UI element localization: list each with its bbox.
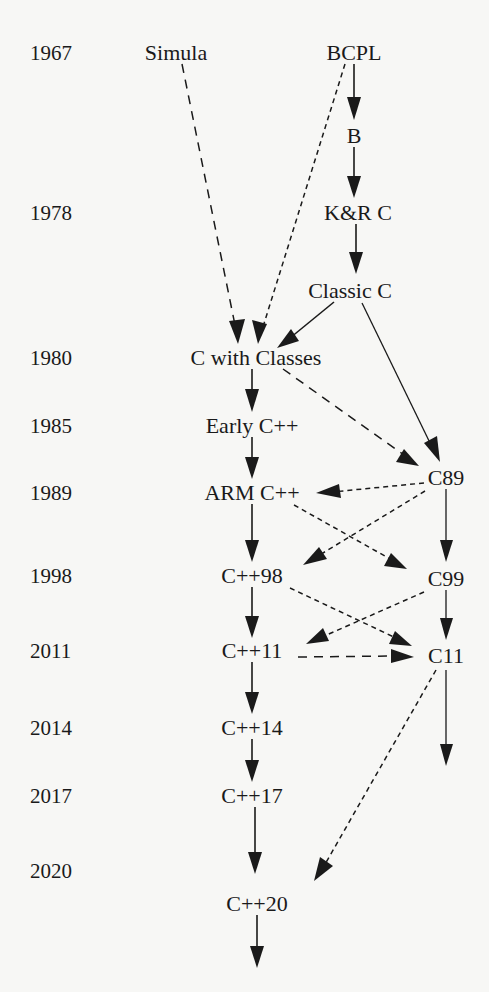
node-bcpl[interactable]: BCPL — [326, 40, 381, 65]
edge-c89-to-c99 — [440, 489, 453, 562]
edge-c89-to-arm-cpp — [316, 483, 424, 498]
node-layer: Simula BCPL B K&R C Classic C C with Cla… — [145, 40, 465, 916]
year-axis: 1967 1978 1980 1985 1989 1998 2011 2014 … — [30, 41, 73, 883]
year-label-1980: 1980 — [30, 346, 72, 370]
edge-c-with-classes-to-c89 — [283, 369, 419, 466]
node-c89[interactable]: C89 — [428, 465, 465, 490]
node-cpp14[interactable]: C++14 — [221, 715, 283, 740]
edge-cpp14-to-cpp17 — [245, 739, 259, 782]
node-b[interactable]: B — [347, 123, 362, 148]
edge-cpp20-to-future-cpp — [250, 915, 264, 968]
edge-b-to-k-and-r-c — [347, 147, 361, 198]
edge-classic-c-to-c-with-classes — [277, 302, 334, 348]
node-arm-cpp[interactable]: ARM C++ — [204, 480, 299, 505]
edge-c11-to-future-c — [440, 670, 453, 766]
edge-c-with-classes-to-early-cpp — [245, 369, 259, 412]
edge-bcpl-to-b — [347, 64, 361, 120]
edge-cpp98-to-c11 — [290, 588, 412, 646]
node-cpp98[interactable]: C++98 — [221, 563, 283, 588]
edge-cpp98-to-cpp11 — [245, 587, 259, 638]
edge-c99-to-cpp11 — [306, 592, 424, 644]
year-label-2011: 2011 — [30, 639, 71, 663]
edge-simula-to-c-with-classes — [182, 64, 245, 344]
edge-c11-to-cpp20 — [314, 670, 436, 881]
node-k-and-r-c[interactable]: K&R C — [324, 200, 392, 225]
year-label-1985: 1985 — [30, 414, 72, 438]
node-cpp20[interactable]: C++20 — [226, 891, 288, 916]
edge-cpp11-to-c11 — [298, 649, 414, 663]
node-simula[interactable]: Simula — [145, 40, 208, 65]
year-label-1967: 1967 — [30, 41, 72, 65]
year-label-1978: 1978 — [30, 201, 72, 225]
edge-c99-to-c11 — [440, 590, 453, 640]
edge-k-and-r-c-to-classic-c — [349, 224, 363, 274]
year-label-1998: 1998 — [30, 564, 72, 588]
node-c99[interactable]: C99 — [428, 566, 465, 591]
year-label-2014: 2014 — [30, 716, 73, 740]
edge-classic-c-to-c89 — [362, 303, 440, 462]
node-cpp17[interactable]: C++17 — [221, 783, 283, 808]
node-classic-c[interactable]: Classic C — [308, 278, 392, 303]
edge-cpp17-to-cpp20 — [248, 807, 262, 874]
edge-early-cpp-to-arm-cpp — [245, 437, 259, 479]
node-c11[interactable]: C11 — [428, 643, 464, 668]
diagram-page: 1967 1978 1980 1985 1989 1998 2011 2014 … — [0, 0, 489, 992]
node-early-cpp[interactable]: Early C++ — [206, 413, 299, 438]
edge-c89-to-cpp98 — [303, 491, 425, 565]
year-label-2020: 2020 — [30, 859, 72, 883]
year-label-1989: 1989 — [30, 481, 72, 505]
node-cpp11[interactable]: C++11 — [222, 638, 283, 663]
node-c-with-classes[interactable]: C with Classes — [191, 345, 322, 370]
edge-layer — [182, 64, 453, 968]
language-evolution-diagram: 1967 1978 1980 1985 1989 1998 2011 2014 … — [0, 0, 489, 992]
year-label-2017: 2017 — [30, 784, 72, 808]
edge-cpp11-to-cpp14 — [245, 662, 259, 714]
edge-arm-cpp-to-cpp98 — [245, 504, 259, 562]
